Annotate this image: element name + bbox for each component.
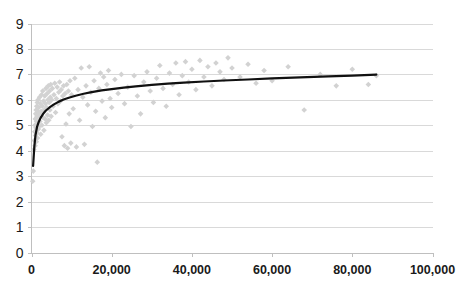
data-point [197,58,203,64]
axis-lines [32,24,433,254]
data-point [253,80,259,86]
data-point [57,79,63,85]
y-tick-label: 3 [16,168,24,184]
data-point [209,83,215,89]
data-point [90,124,96,130]
y-tick-label: 8 [16,41,24,57]
data-point [75,87,81,93]
data-point [112,77,118,83]
data-point [225,55,231,61]
data-point [74,144,80,150]
data-point [160,86,166,92]
data-point [68,140,74,146]
data-point [104,82,110,88]
y-tick-label: 5 [16,117,24,133]
data-point [77,117,83,123]
y-tick-label: 7 [16,66,24,82]
x-axis-tick-labels: 020,00040,00060,00080,000100,000 [28,263,455,277]
data-point [67,78,73,84]
y-tick-label: 0 [16,245,24,261]
data-point [30,178,36,184]
x-tick-label: 60,000 [253,263,291,277]
data-point [128,124,134,130]
tick-marks [28,25,434,258]
data-point [179,73,185,79]
x-tick-label: 20,000 [93,263,131,277]
data-point [131,73,137,79]
data-point [229,65,235,71]
data-point [176,92,182,98]
data-point [154,75,160,81]
data-point [86,64,92,70]
data-point [72,75,78,81]
data-point [85,102,91,108]
data-point [193,87,199,93]
data-point [183,59,189,65]
trend-line [33,75,376,166]
data-point [213,60,219,66]
data-point [189,67,195,73]
data-point [102,115,108,121]
y-tick-label: 4 [16,143,24,159]
data-point [66,111,72,117]
data-point [91,78,97,84]
data-point [138,111,144,117]
data-point [98,70,104,76]
data-point [157,63,163,69]
data-point [366,82,372,88]
data-point [41,128,47,134]
y-tick-label: 1 [16,219,24,235]
data-point [135,93,141,99]
data-point [261,68,267,74]
data-point [350,67,356,73]
trend-curve [33,75,376,166]
data-point [93,108,99,114]
data-point [119,72,125,78]
data-point [147,88,153,94]
scatter-chart: 0123456789 020,00040,00060,00080,000100,… [0,0,460,288]
data-point [205,64,211,70]
data-point [173,60,179,66]
y-tick-label: 6 [16,92,24,108]
data-point [333,83,339,89]
y-axis-tick-labels: 0123456789 [16,16,24,261]
data-point [167,70,173,76]
data-point [53,110,59,116]
data-point [122,101,128,107]
data-point [59,134,65,140]
data-point [83,83,89,89]
data-point [94,159,100,165]
data-point [99,98,105,104]
data-point [82,142,88,148]
data-point [109,105,115,111]
chart-canvas: 0123456789 020,00040,00060,00080,000100,… [0,0,460,288]
data-point [301,107,307,113]
x-tick-label: 0 [28,263,35,277]
data-point [163,103,169,109]
data-point [285,64,291,70]
y-tick-label: 9 [16,16,24,32]
data-point [78,65,84,71]
data-point [217,69,223,75]
x-tick-label: 100,000 [410,263,455,277]
x-tick-label: 80,000 [333,263,371,277]
data-point [70,106,76,112]
data-point [245,61,251,67]
data-point [141,79,147,85]
data-point [144,69,150,75]
y-tick-label: 2 [16,194,24,210]
data-point [106,68,112,74]
data-point [115,91,121,97]
x-tick-label: 40,000 [173,263,211,277]
